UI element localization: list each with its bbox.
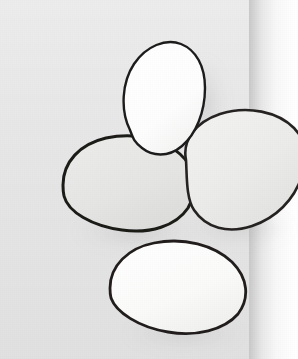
egg-bottom xyxy=(110,241,246,334)
image-canvas: Four overlapping egg-shaped ovals drawn … xyxy=(0,0,298,359)
egg-right xyxy=(185,110,298,229)
egg-right-body xyxy=(185,110,298,229)
egg-bottom-body xyxy=(110,241,246,334)
eggs-illustration xyxy=(0,0,298,359)
